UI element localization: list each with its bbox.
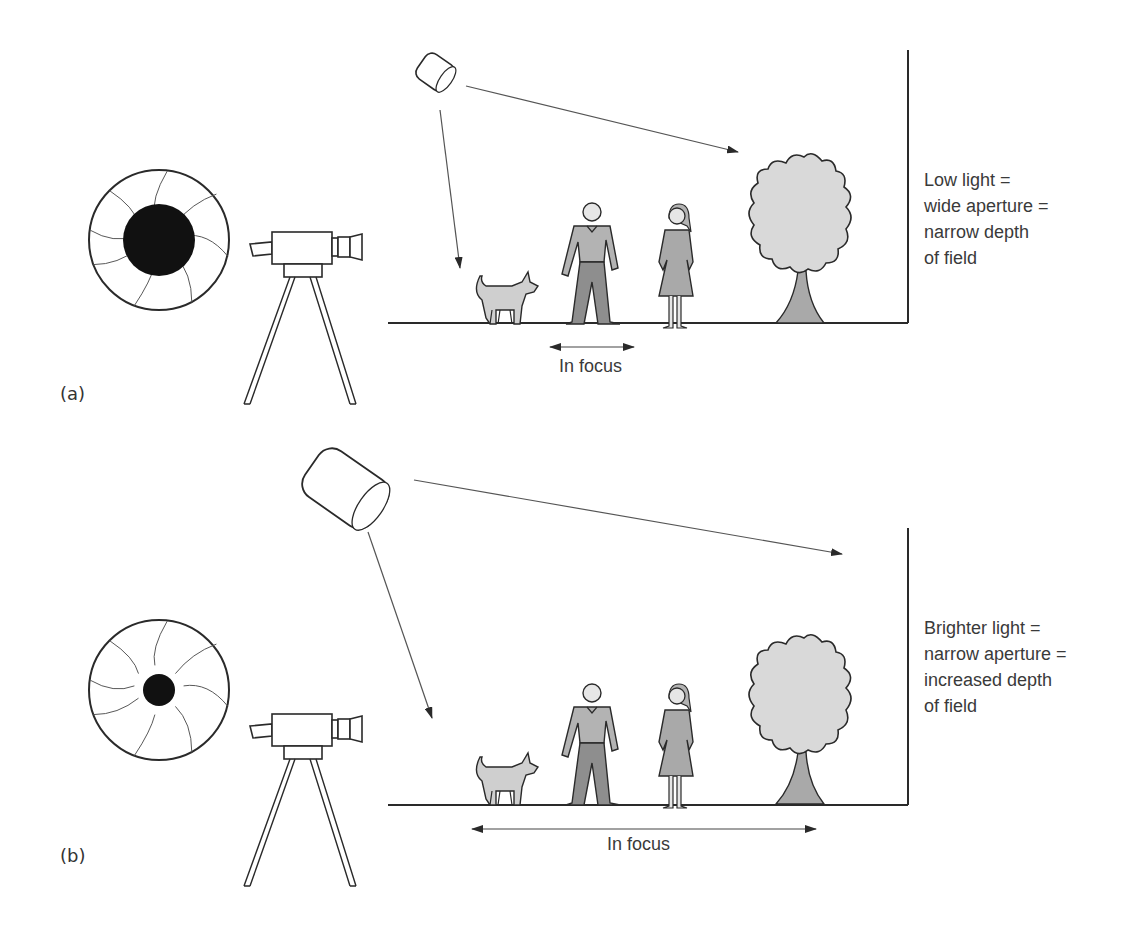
panel-a: In focus Low light = wide aperture = nar… (60, 50, 1049, 404)
focus-label: In focus (559, 356, 622, 376)
caption-line: increased depth (924, 670, 1052, 690)
panel-label: (b) (60, 845, 85, 866)
caption-line: of field (924, 696, 977, 716)
camera-tripod-icon (244, 232, 362, 404)
depth-of-field-diagram: In focus Low light = wide aperture = nar… (0, 0, 1130, 930)
caption-line: of field (924, 248, 977, 268)
light-ray (466, 86, 738, 152)
caption-line: Brighter light = (924, 618, 1041, 638)
woman-icon (659, 684, 693, 808)
man-icon (562, 203, 620, 324)
aperture-wide-icon (89, 170, 229, 310)
caption-line: narrow aperture = (924, 644, 1067, 664)
light-ray (368, 532, 432, 718)
aperture-narrow-icon (89, 620, 229, 760)
panel-b: In focus Brighter light = narrow apertur… (60, 442, 1067, 886)
camera-tripod-icon (244, 714, 362, 886)
dog-icon (476, 272, 538, 324)
dog-icon (476, 753, 538, 805)
light-ray (440, 110, 460, 268)
tree-icon (749, 154, 851, 323)
focus-label: In focus (607, 834, 670, 854)
caption-line: Low light = (924, 170, 1011, 190)
caption-line: narrow depth (924, 222, 1029, 242)
panel-label: (a) (60, 383, 85, 404)
tree-icon (749, 635, 851, 804)
woman-icon (659, 204, 693, 328)
light-icon (413, 50, 460, 95)
light-icon (296, 442, 397, 536)
man-icon (562, 684, 620, 805)
light-ray (414, 480, 842, 554)
caption-line: wide aperture = (923, 196, 1049, 216)
